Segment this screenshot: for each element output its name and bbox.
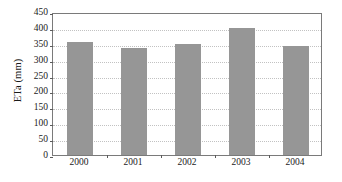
bar — [67, 42, 93, 155]
y-axis-tick-label: 350 — [34, 40, 48, 50]
bar — [283, 46, 309, 155]
bar — [175, 44, 201, 155]
x-axis-tick-label: 2004 — [286, 158, 305, 168]
y-axis-tick-label: 0 — [43, 151, 48, 161]
bar — [121, 48, 147, 155]
y-axis-tick-label: 400 — [34, 24, 48, 34]
x-axis-tick-label: 2000 — [70, 158, 89, 168]
y-axis-tick-label: 50 — [39, 135, 49, 145]
x-axis-tick-labels: 20002001200220032004 — [52, 158, 322, 174]
bar-chart: ETa (mm) 050100150200250300350400450 200… — [0, 0, 342, 182]
bar — [229, 28, 255, 155]
plot-area — [52, 13, 322, 156]
y-axis-tick-label: 300 — [34, 56, 48, 66]
y-axis-tick-label: 150 — [34, 104, 48, 114]
bars — [53, 14, 321, 155]
y-axis-tick-label: 200 — [34, 88, 48, 98]
y-axis-tick-labels: 050100150200250300350400450 — [22, 13, 48, 156]
x-axis-tick-label: 2002 — [178, 158, 197, 168]
x-axis-tick-label: 2001 — [124, 158, 143, 168]
x-axis-tick-label: 2003 — [232, 158, 251, 168]
y-axis-tick-label: 100 — [34, 119, 48, 129]
y-axis-tick-label: 450 — [34, 8, 48, 18]
y-axis-tick-label: 250 — [34, 72, 48, 82]
